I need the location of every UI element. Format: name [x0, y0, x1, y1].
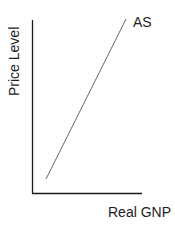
as-curve — [46, 19, 126, 179]
x-axis-label: Real GNP — [108, 205, 171, 219]
as-curve-label: AS — [133, 15, 152, 29]
y-axis-label: Price Level — [7, 27, 21, 96]
chart-canvas — [0, 0, 175, 229]
